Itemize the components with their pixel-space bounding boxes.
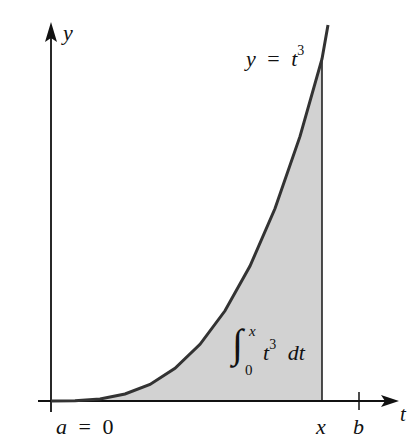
tick-a-value: 0 bbox=[102, 414, 113, 439]
integrand-exp: 3 bbox=[269, 337, 276, 352]
curve-label-exp: 3 bbox=[297, 43, 304, 58]
y-axis-label: y bbox=[63, 22, 73, 44]
integral-lower-limit: 0 bbox=[245, 362, 253, 379]
curve-label-eq: = bbox=[267, 46, 279, 71]
tick-x-label: x bbox=[316, 416, 326, 438]
tick-b-label: b bbox=[353, 416, 364, 438]
integral-upper-limit: x bbox=[249, 323, 256, 340]
integral-sign-icon: ∫ bbox=[232, 320, 243, 367]
integrand-dt: dt bbox=[288, 340, 305, 365]
t-axis-label: t bbox=[400, 404, 406, 425]
tick-a-eq: = bbox=[79, 414, 91, 439]
tick-a-var: a bbox=[56, 414, 67, 439]
curve-label-lhs: y bbox=[246, 46, 256, 71]
curve-label: y = t3 bbox=[246, 48, 304, 70]
diagram-canvas bbox=[0, 0, 416, 441]
integrand: t3 dt bbox=[263, 342, 305, 364]
tick-a-label: a = 0 bbox=[56, 416, 113, 438]
